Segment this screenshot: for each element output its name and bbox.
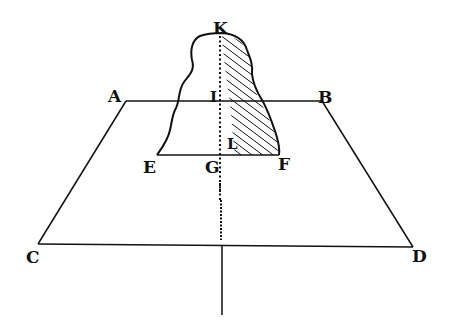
perspective-diagram: K A B I L E G F C D: [0, 0, 452, 332]
label-B: B: [318, 87, 332, 107]
label-I: I: [210, 88, 217, 106]
line-CD: [38, 244, 413, 247]
label-E: E: [143, 157, 156, 177]
label-K: K: [213, 18, 229, 38]
label-F: F: [278, 154, 290, 174]
line-BD: [322, 101, 413, 247]
label-C: C: [26, 247, 40, 267]
label-G: G: [205, 157, 220, 177]
label-A: A: [107, 86, 122, 106]
label-L: L: [227, 135, 238, 153]
diagram-canvas: K A B I L E G F C D: [0, 0, 452, 332]
line-AC: [38, 101, 126, 244]
label-D: D: [412, 246, 427, 266]
ground-plane: [38, 101, 413, 247]
mountain-outline: [157, 33, 279, 155]
